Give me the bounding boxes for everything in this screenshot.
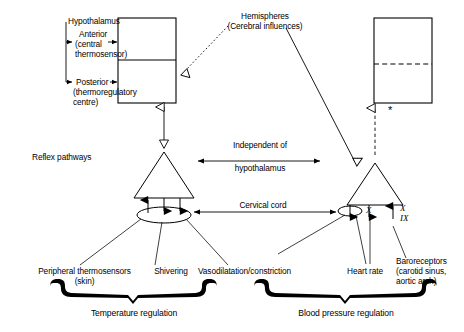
posterior-label-line3: centre) (73, 97, 98, 107)
hemispheres-label-line1: Hemispheres (210, 11, 320, 21)
asterisk-marker: * (388, 105, 392, 115)
anterior-label-line3: thermosensor) (75, 49, 127, 59)
right-triangle-medulla (347, 163, 403, 205)
posterior-label-line1: Posterior (76, 77, 108, 87)
compartment-inflow-arrows (108, 42, 117, 82)
right-fan-lines (278, 215, 406, 264)
diagram-canvas: Hypothalamus Anterior (central thermosen… (0, 0, 464, 332)
left-fan-lines (80, 219, 228, 265)
vasodilatation-label: Vasodilatation/constriction (198, 266, 291, 276)
vagus-nerve-label-right: X (400, 203, 405, 213)
vagus-nerve-label-left: X (366, 205, 371, 215)
hypothalamus-label: Hypothalamus (68, 16, 120, 26)
heart-rate-label: Heart rate (334, 266, 396, 276)
baroreceptors-label-line2: (carotid sinus, (396, 266, 446, 276)
reflex-pathways-label: Reflex pathways (32, 152, 91, 162)
hypothalamus-reflex-connector (160, 107, 169, 148)
independent-label-line2: hypothalamus (208, 163, 312, 173)
peripheral-thermosensors-label-line1: Peripheral thermosensors (12, 266, 157, 276)
left-triangle-stems (148, 198, 180, 213)
anterior-label-line1: Anterior (79, 29, 107, 39)
cervical-cord-label: Cervical cord (213, 200, 313, 210)
temperature-regulation-label: Temperature regulation (66, 308, 202, 318)
hemispheres-label-line2: (Cerebral influences) (198, 21, 332, 31)
hemispheres-to-hypothalamus-arrow (184, 26, 228, 72)
baroreceptors-label-line1: Baroreceptors (396, 256, 447, 266)
hypothalamus-bracket (66, 22, 72, 82)
spinal-cord-box (374, 18, 432, 103)
independent-label-line1: Independent of (208, 140, 312, 150)
posterior-label-line2: (thermoregulatory (73, 87, 137, 97)
peripheral-thermosensors-label-line2: (skin) (12, 276, 157, 286)
blood-pressure-regulation-label: Blood pressure regulation (276, 308, 416, 318)
left-triangle-reflex (134, 152, 194, 198)
anterior-label-line2: (central (75, 39, 102, 49)
shivering-label: Shivering (138, 266, 204, 276)
glossopharyngeal-nerve-label: IX (400, 213, 408, 223)
baroreceptors-label-line3: aortic arch) (396, 276, 436, 286)
